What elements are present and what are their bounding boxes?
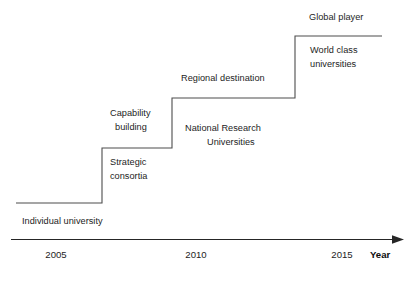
label-strategic-consortia-line2: consortia xyxy=(110,170,147,184)
label-strategic-consortia-line1: Strategic xyxy=(110,156,146,170)
label-capability-building-line2: building xyxy=(115,121,147,135)
label-world-class-line2: universities xyxy=(310,58,356,72)
axis-title-year: Year xyxy=(370,249,390,261)
label-national-research-line2: Universities xyxy=(207,136,255,150)
label-capability-building-line1: Capability xyxy=(110,107,151,121)
diagram-canvas: Individual university Capability buildin… xyxy=(0,0,417,281)
axis-tick-2005: 2005 xyxy=(36,249,76,261)
label-individual-university: Individual university xyxy=(22,215,103,229)
label-world-class-line1: World class xyxy=(310,44,358,58)
label-regional-destination: Regional destination xyxy=(181,72,265,86)
axis-tick-2010: 2010 xyxy=(176,249,216,261)
label-national-research-line1: National Research xyxy=(185,122,261,136)
year-axis-arrow-icon xyxy=(392,235,404,244)
axis-tick-2015: 2015 xyxy=(322,249,362,261)
label-global-player: Global player xyxy=(309,11,363,25)
